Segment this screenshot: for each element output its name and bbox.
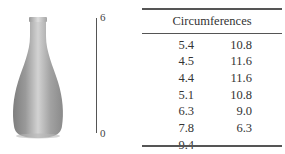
- cell: 11.6: [194, 70, 252, 87]
- table-row: 5.410.8: [142, 37, 282, 54]
- cell: 11.6: [194, 53, 252, 70]
- cell: 4.4: [142, 70, 194, 87]
- cell: 6.3: [194, 120, 252, 137]
- table-row: 5.110.8: [142, 87, 282, 104]
- cell: 10.8: [194, 37, 252, 54]
- circumferences-table: Circumferences 5.410.8 4.511.6 4.411.6 5…: [142, 8, 282, 153]
- height-scale-line: [96, 18, 97, 133]
- cell: 6.3: [142, 103, 194, 120]
- scale-bottom-label: 0: [100, 127, 106, 139]
- table-row: 4.511.6: [142, 53, 282, 70]
- table-row: 7.86.3: [142, 120, 282, 137]
- table-body: 5.410.8 4.511.6 4.411.6 5.110.8 6.39.0 7…: [142, 34, 282, 154]
- cell: 10.8: [194, 87, 252, 104]
- table-header: Circumferences: [142, 10, 282, 33]
- table-row: 6.39.0: [142, 103, 282, 120]
- scale-top-label: 6: [100, 11, 106, 23]
- cell: 5.4: [142, 37, 194, 54]
- table-row: 4.411.6: [142, 70, 282, 87]
- cell: 5.1: [142, 87, 194, 104]
- table-bottom-rule: [142, 145, 282, 147]
- cell: 4.5: [142, 53, 194, 70]
- vase-illustration: [8, 14, 68, 142]
- cell: 7.8: [142, 120, 194, 137]
- cell: 9.0: [194, 103, 252, 120]
